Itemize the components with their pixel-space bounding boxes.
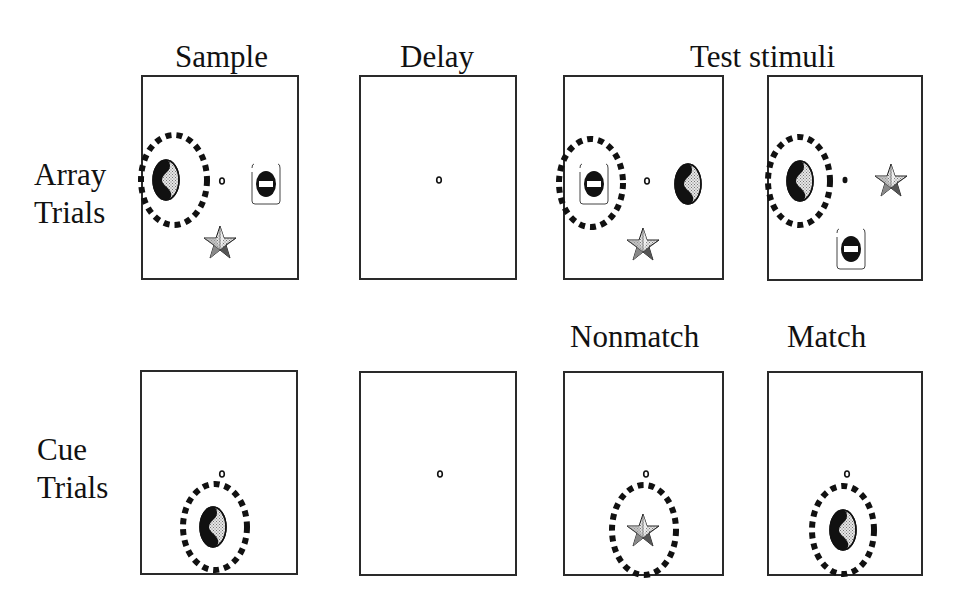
no-entry-icon <box>837 229 865 269</box>
fixation-point <box>220 471 225 477</box>
yin-yang-icon <box>153 160 179 200</box>
array-sample-stimuli <box>141 135 280 258</box>
star-icon <box>627 514 659 546</box>
yin-yang-icon <box>675 164 701 204</box>
star-icon <box>875 164 907 196</box>
cue-sample-stimuli <box>183 471 247 570</box>
fixation-point <box>845 471 850 477</box>
fixation-point <box>644 471 649 477</box>
fixation-point <box>438 471 443 477</box>
fixation-point <box>437 177 442 183</box>
cue-nonmatch-stimuli <box>612 471 676 575</box>
yin-yang-icon <box>787 161 813 201</box>
star-icon <box>204 226 236 258</box>
array-test-2-stimuli <box>768 137 907 269</box>
stimulus-layer <box>0 0 953 603</box>
fixation-point-filled <box>843 177 848 183</box>
no-entry-icon <box>252 164 280 204</box>
yin-yang-icon <box>200 507 226 547</box>
fixation-point <box>220 178 225 184</box>
no-entry-icon <box>580 164 608 204</box>
cue-match-stimuli <box>812 471 874 574</box>
fixation-point <box>645 178 650 184</box>
yin-yang-icon <box>830 510 856 550</box>
array-test-1-stimuli <box>559 139 701 260</box>
star-icon <box>627 228 659 260</box>
